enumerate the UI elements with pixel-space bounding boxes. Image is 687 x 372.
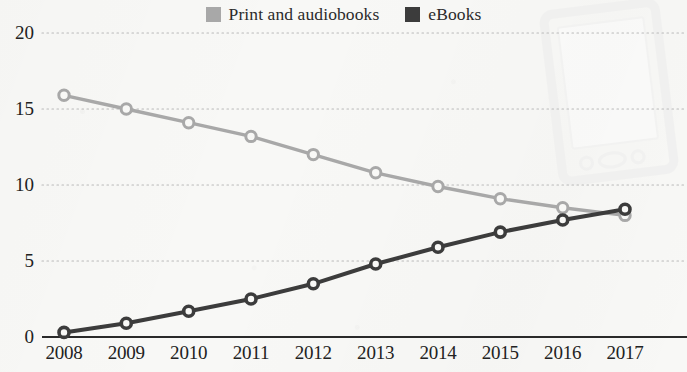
x-tick-label: 2008 [45,342,82,364]
data-point-marker [558,215,568,225]
series-line [64,95,625,215]
data-point-marker [59,327,69,337]
y-tick-label: 0 [0,326,34,348]
series-line [64,209,625,332]
y-tick-label: 10 [0,174,34,196]
data-point-marker [620,204,630,214]
data-point-marker [59,90,69,100]
x-tick-label: 2009 [108,342,145,364]
data-point-marker [433,181,443,191]
data-point-marker [558,203,568,213]
plot-area [0,0,687,372]
data-point-marker [184,118,194,128]
x-tick-label: 2016 [544,342,581,364]
data-point-marker [495,194,505,204]
x-tick-label: 2010 [170,342,207,364]
data-point-marker [184,306,194,316]
data-point-marker [495,227,505,237]
y-tick-label: 20 [0,22,34,44]
x-tick-label: 2014 [419,342,456,364]
tablet-ereader-watermark [543,2,675,182]
y-tick-label: 15 [0,98,34,120]
x-tick-label: 2013 [357,342,394,364]
x-tick-label: 2017 [606,342,643,364]
series-ebooks [59,204,630,337]
data-point-marker [308,149,318,159]
x-tick-label: 2012 [295,342,332,364]
data-point-marker [308,279,318,289]
line-chart: Print and audiobooks eBooks [0,0,687,372]
x-tick-label: 2011 [233,342,270,364]
y-tick-label: 5 [0,250,34,272]
data-point-marker [121,318,131,328]
data-point-marker [371,168,381,178]
data-point-marker [433,242,443,252]
data-point-marker [371,259,381,269]
x-tick-label: 2015 [482,342,519,364]
data-point-marker [246,294,256,304]
data-point-marker [121,104,131,114]
series-print-and-audiobooks [59,90,630,220]
data-point-marker [246,131,256,141]
